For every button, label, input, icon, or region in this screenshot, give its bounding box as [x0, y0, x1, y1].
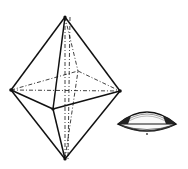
- vertex-dots: [9, 15, 122, 160]
- octahedron: [9, 15, 122, 160]
- crystal-diagram: [0, 0, 188, 169]
- hidden-edges: [11, 17, 120, 159]
- visible-edges: [11, 17, 120, 159]
- lens-crystal: [118, 111, 176, 135]
